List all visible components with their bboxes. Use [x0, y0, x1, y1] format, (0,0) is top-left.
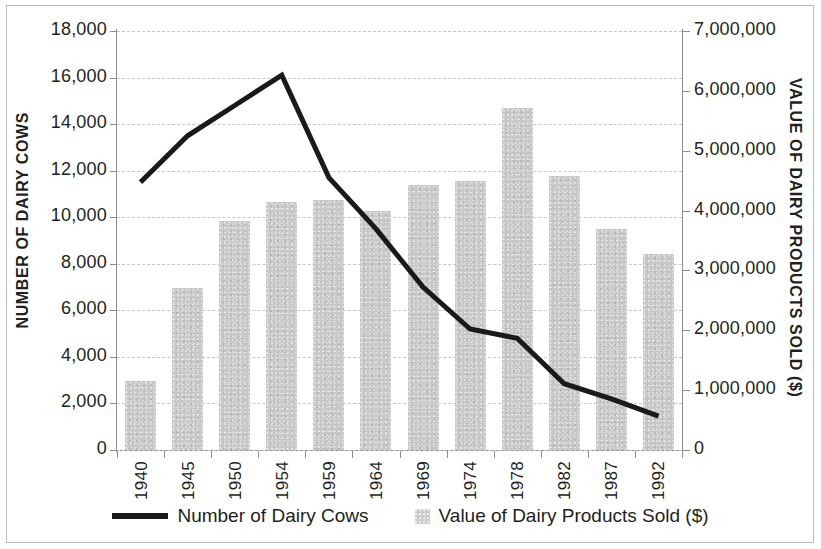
dairy-chart-figure: 02,0004,0006,0008,00010,00012,00014,0001…	[0, 0, 821, 549]
left-tick	[110, 450, 117, 451]
left-tick-label: 18,000	[51, 19, 107, 40]
right-tick-label: 4,000,000	[694, 199, 776, 220]
x-tick-label: 1940	[132, 461, 152, 500]
x-tick-label: 1950	[226, 461, 246, 500]
left-tick-label: 4,000	[61, 345, 107, 366]
legend-label-dairy-value: Value of Dairy Products Sold ($)	[439, 505, 709, 527]
right-tick	[683, 270, 690, 271]
legend-item-dairy-cows: Number of Dairy Cows	[112, 505, 368, 527]
bar-swatch-icon	[415, 509, 430, 524]
left-tick	[110, 171, 117, 172]
right-tick	[683, 390, 690, 391]
right-tick-label: 2,000,000	[694, 318, 776, 339]
right-tick	[683, 211, 690, 212]
right-tick-label: 7,000,000	[694, 19, 776, 40]
x-tick	[494, 451, 495, 458]
right-tick	[683, 330, 690, 331]
line-swatch-icon	[112, 513, 168, 519]
left-tick-label: 16,000	[51, 66, 107, 87]
left-tick	[110, 310, 117, 311]
right-tick-label: 1,000,000	[694, 378, 776, 399]
x-tick	[682, 451, 683, 458]
line-series	[117, 31, 682, 450]
left-tick-label: 8,000	[61, 252, 107, 273]
right-tick-label: 6,000,000	[694, 79, 776, 100]
right-axis-title: VALUE OF DAIRY PRODUCTS SOLD ($)	[786, 78, 804, 397]
left-tick	[110, 124, 117, 125]
left-tick-label: 10,000	[51, 205, 107, 226]
right-tick	[683, 31, 690, 32]
x-tick	[635, 451, 636, 458]
right-axis-line	[682, 29, 683, 452]
left-tick-label: 0	[97, 438, 107, 459]
left-tick	[110, 31, 117, 32]
left-tick-label: 6,000	[61, 298, 107, 319]
x-tick-label: 1978	[508, 461, 528, 500]
x-tick-label: 1987	[602, 461, 622, 500]
x-tick	[400, 451, 401, 458]
x-tick-label: 1982	[555, 461, 575, 500]
x-tick	[447, 451, 448, 458]
x-tick-label: 1964	[367, 461, 387, 500]
legend-item-dairy-value: Value of Dairy Products Sold ($)	[415, 505, 709, 527]
left-tick	[110, 403, 117, 404]
left-tick-label: 14,000	[51, 112, 107, 133]
x-tick-label: 1959	[320, 461, 340, 500]
dairy-cows-line	[141, 75, 659, 416]
x-tick	[305, 451, 306, 458]
left-axis-title: NUMBER OF DAIRY COWS	[14, 112, 32, 328]
gridline	[117, 450, 682, 451]
x-tick	[164, 451, 165, 458]
x-tick	[541, 451, 542, 458]
left-tick	[110, 217, 117, 218]
x-tick-label: 1992	[649, 461, 669, 500]
legend-label-dairy-cows: Number of Dairy Cows	[177, 505, 368, 527]
left-tick	[110, 78, 117, 79]
right-tick	[683, 450, 690, 451]
right-tick-label: 5,000,000	[694, 139, 776, 160]
x-tick	[352, 451, 353, 458]
plot-area	[117, 31, 682, 450]
x-tick-label: 1969	[414, 461, 434, 500]
right-tick-label: 0	[694, 438, 704, 459]
right-tick-label: 3,000,000	[694, 258, 776, 279]
chart-legend: Number of Dairy Cows Value of Dairy Prod…	[0, 505, 821, 527]
x-tick	[117, 451, 118, 458]
left-tick	[110, 264, 117, 265]
left-tick	[110, 357, 117, 358]
x-tick	[588, 451, 589, 458]
left-tick-label: 12,000	[51, 159, 107, 180]
x-tick-label: 1954	[273, 461, 293, 500]
x-tick-label: 1974	[461, 461, 481, 500]
x-tick	[258, 451, 259, 458]
right-tick	[683, 151, 690, 152]
left-tick-label: 2,000	[61, 391, 107, 412]
x-tick-label: 1945	[179, 461, 199, 500]
right-tick	[683, 91, 690, 92]
x-tick	[211, 451, 212, 458]
